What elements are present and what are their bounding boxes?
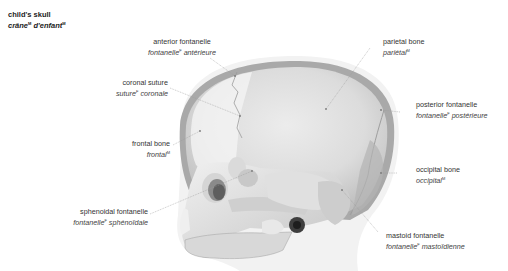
title-en: child's skull	[8, 10, 51, 19]
label-parietal-bone: parietal bone pariétalM	[383, 37, 425, 57]
label-mastoid-fontanelle: mastoid fontanelle fontanelleF mastoïdie…	[386, 231, 465, 251]
title-fr: crâneM d'enfantM	[8, 19, 66, 30]
label-occipital-bone: occipital bone occipitalM	[416, 165, 460, 185]
label-anterior-fontanelle: anterior fontanelle fontanelleF antérieu…	[148, 37, 216, 57]
label-posterior-fontanelle: posterior fontanelle fontanelleF postéri…	[416, 100, 488, 120]
label-frontal-bone: frontal bone frontalM	[100, 139, 170, 159]
label-coronal-suture: coronal suture sutureF coronale	[100, 78, 168, 98]
label-sphenoidal-fontanelle: sphenoidal fontanelle fontanelleF sphéno…	[60, 207, 148, 227]
diagram-title: child's skull crâneM d'enfantM	[8, 10, 66, 30]
